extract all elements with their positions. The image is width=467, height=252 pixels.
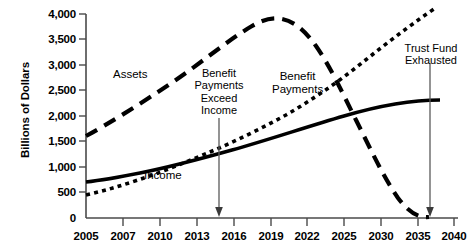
annotation-trust-fund-line1: Trust Fund [398,42,464,54]
annotation-exceed-line3: Exceed [186,92,252,104]
series-label-assets: Assets [113,68,148,81]
annotation-exceed-line2: Payments [186,79,252,91]
series-label-benefit-payments-line2: Payments [272,83,323,96]
series-label-benefit-payments: Benefit Payments [272,70,323,95]
annotation-exceed-line4: Income [186,104,252,116]
x-axis-ticks [123,218,454,226]
y-tick-label: 500 [10,186,76,198]
y-tick-label: 3,500 [10,33,76,45]
series-assets-line [86,18,429,217]
series-label-benefit-payments-line1: Benefit [272,70,323,83]
annotation-arrow-2040 [426,63,434,217]
y-tick-label: 2,500 [10,84,76,96]
x-tick-label: 2040 [429,230,467,242]
annotation-benefit-payments-exceed-income: Benefit Payments Exceed Income [186,67,252,117]
annotation-trust-fund-exhausted: Trust Fund Exhausted [398,42,464,67]
y-tick-label: 1,000 [10,161,76,173]
y-axis-ticks [79,14,86,192]
annotation-exceed-line1: Benefit [186,67,252,79]
y-tick-label: 1,500 [10,135,76,147]
y-tick-label: 4,000 [10,8,76,20]
y-tick-label: 0 [10,212,76,224]
series-income-line [86,100,440,182]
y-tick-label: 3,000 [10,59,76,71]
annotation-trust-fund-line2: Exhausted [398,54,464,66]
series-benefit-payments-line [86,9,434,195]
y-tick-label: 2,000 [10,110,76,122]
chart-container: Billions of Dollars 4,000 3,500 3,000 2,… [0,0,467,252]
series-label-income: Income [144,169,182,182]
annotation-arrow-2016 [215,118,223,217]
